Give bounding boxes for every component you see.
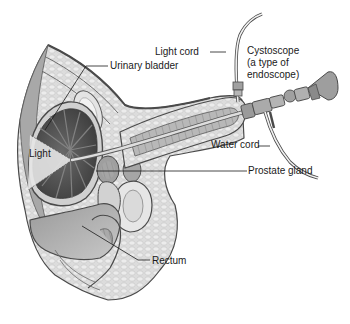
label-rectum: Rectum [152, 255, 186, 267]
label-urinary-bladder: Urinary bladder [110, 60, 178, 72]
label-prostate-gland: Prostate gland [248, 165, 313, 177]
label-cystoscope: Cystoscope (a type of endoscope) [247, 45, 299, 81]
label-light: Light [29, 148, 51, 160]
label-water-cord: Water cord [211, 139, 260, 151]
label-light-cord: Light cord [155, 46, 199, 58]
